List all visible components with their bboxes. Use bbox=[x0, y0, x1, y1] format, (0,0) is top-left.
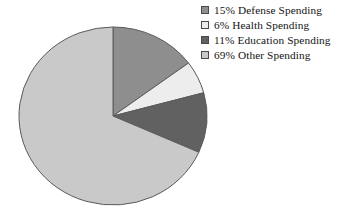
legend-swatch-health bbox=[201, 21, 209, 29]
legend-item-other[interactable]: 69% Other Spending bbox=[201, 48, 353, 63]
legend-label-education: 11% Education Spending bbox=[214, 33, 331, 48]
pie-chart-svg bbox=[0, 0, 220, 218]
pie-chart-plot-area bbox=[0, 0, 220, 218]
chart-legend: 15% Defense Spending 6% Health Spending … bbox=[201, 3, 353, 63]
legend-label-defense: 15% Defense Spending bbox=[214, 3, 322, 18]
legend-item-defense[interactable]: 15% Defense Spending bbox=[201, 3, 353, 18]
legend-item-health[interactable]: 6% Health Spending bbox=[201, 18, 353, 33]
legend-swatch-other bbox=[201, 51, 209, 59]
pie-chart-figure: 15% Defense Spending 6% Health Spending … bbox=[0, 0, 355, 218]
pie-slice-group bbox=[19, 27, 207, 205]
legend-item-education[interactable]: 11% Education Spending bbox=[201, 33, 353, 48]
legend-swatch-defense bbox=[201, 6, 209, 14]
legend-swatch-education bbox=[201, 36, 209, 44]
legend-label-health: 6% Health Spending bbox=[214, 18, 309, 33]
legend-label-other: 69% Other Spending bbox=[214, 48, 311, 63]
